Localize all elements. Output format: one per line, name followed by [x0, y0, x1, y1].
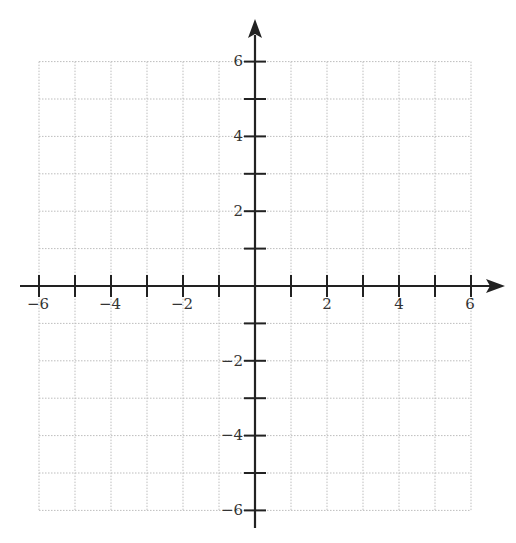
x-tick-labels: −6 −4 −2 2 4 6: [27, 295, 475, 313]
y-tick-label: 4: [233, 127, 243, 145]
y-tick-label: 6: [233, 52, 243, 70]
x-tick-label: −2: [171, 295, 193, 313]
y-tick-label: −4: [221, 426, 243, 444]
axes: [20, 35, 490, 528]
x-tick-label: 6: [465, 295, 475, 313]
y-tick-label: −2: [221, 352, 243, 370]
coordinate-plane: −6 −4 −2 2 4 6 6 4 2 −2 −4 −6: [0, 0, 516, 543]
y-tick-label: 2: [233, 202, 243, 220]
x-tick-label: −4: [99, 295, 121, 313]
x-tick-label: 4: [394, 295, 404, 313]
x-tick-label: 2: [322, 295, 332, 313]
y-tick-label: −6: [221, 501, 243, 519]
x-tick-label: −6: [27, 295, 49, 313]
